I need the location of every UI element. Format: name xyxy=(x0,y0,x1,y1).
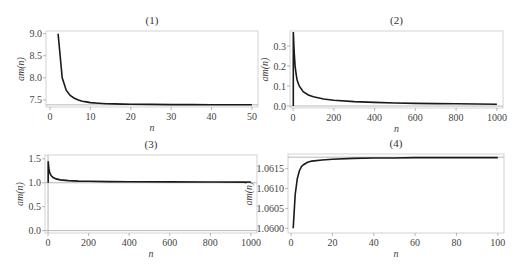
x-tick-label: 1000 xyxy=(487,112,507,123)
y-axis-label: am(n) xyxy=(15,56,27,81)
x-tick-label: 40 xyxy=(369,237,379,248)
x-axis-label: n xyxy=(394,248,399,259)
y-tick-label: 0.2 xyxy=(274,61,287,72)
y-tick-label: 8.0 xyxy=(30,72,43,83)
x-tick-label: 600 xyxy=(162,237,177,248)
subplot-2: (2)020040060080010000.00.10.20.3nam(n) xyxy=(259,14,507,134)
plot-frame xyxy=(290,31,503,108)
x-tick-label: 20 xyxy=(126,111,136,122)
x-tick-label: 400 xyxy=(122,237,137,248)
series-line xyxy=(293,32,497,106)
x-tick-label: 200 xyxy=(81,237,96,248)
x-tick-label: 800 xyxy=(449,112,464,123)
x-tick-label: 0 xyxy=(289,237,294,248)
x-tick-label: 10 xyxy=(85,111,95,122)
subplot-4: (4)0204060801001.06001.06051.06101.0615n… xyxy=(243,137,505,259)
y-tick-label: 8.5 xyxy=(30,50,43,61)
subplot-title: (1) xyxy=(146,14,159,27)
y-tick-label: 1.5 xyxy=(29,153,42,164)
y-tick-label: 0.0 xyxy=(29,225,42,236)
subplot-1: (1)010203040507.58.08.59.0nam(n) xyxy=(15,14,258,133)
x-tick-label: 400 xyxy=(367,112,382,123)
y-axis-label: am(n) xyxy=(259,57,271,82)
x-tick-label: 0 xyxy=(48,111,53,122)
y-tick-label: 1.0615 xyxy=(257,163,285,174)
x-tick-label: 1000 xyxy=(241,237,261,248)
subplot-3: (3)020040060080010000.00.51.01.5nam(n) xyxy=(14,138,261,259)
y-axis-label: am(n) xyxy=(14,181,26,206)
subplot-title: (4) xyxy=(390,137,403,150)
x-tick-label: 60 xyxy=(410,237,420,248)
plot-frame xyxy=(45,155,257,233)
x-axis-label: n xyxy=(394,123,399,134)
x-tick-label: 30 xyxy=(166,111,176,122)
series-line xyxy=(48,161,251,183)
x-tick-label: 0 xyxy=(46,237,51,248)
y-tick-label: 0.0 xyxy=(274,101,287,112)
plot-frame xyxy=(46,31,258,107)
x-tick-label: 600 xyxy=(408,112,423,123)
x-tick-label: 20 xyxy=(327,237,337,248)
y-tick-label: 0.1 xyxy=(274,81,287,92)
plot-frame xyxy=(288,154,504,233)
y-tick-label: 1.0605 xyxy=(257,203,285,214)
x-tick-label: 0 xyxy=(291,112,296,123)
subplot-title: (2) xyxy=(390,14,403,27)
x-axis-label: n xyxy=(149,248,154,259)
x-tick-label: 40 xyxy=(207,111,217,122)
series-line xyxy=(58,34,252,105)
y-tick-label: 7.5 xyxy=(30,94,43,105)
y-tick-label: 1.0600 xyxy=(257,223,285,234)
x-tick-label: 80 xyxy=(451,237,461,248)
y-tick-label: 1.0 xyxy=(29,177,42,188)
x-axis-label: n xyxy=(150,122,155,133)
chart-figure: (1)010203040507.58.08.59.0nam(n) (2)0200… xyxy=(0,0,521,267)
y-tick-label: 9.0 xyxy=(30,28,43,39)
x-tick-label: 200 xyxy=(326,112,341,123)
y-axis-label: am(n) xyxy=(243,181,255,206)
x-tick-label: 100 xyxy=(490,237,505,248)
series-line xyxy=(293,158,498,229)
x-tick-label: 50 xyxy=(247,111,257,122)
x-tick-label: 800 xyxy=(203,237,218,248)
subplot-title: (3) xyxy=(145,138,158,151)
y-tick-label: 0.3 xyxy=(274,41,287,52)
y-tick-label: 1.0610 xyxy=(257,183,285,194)
y-tick-label: 0.5 xyxy=(29,201,42,212)
